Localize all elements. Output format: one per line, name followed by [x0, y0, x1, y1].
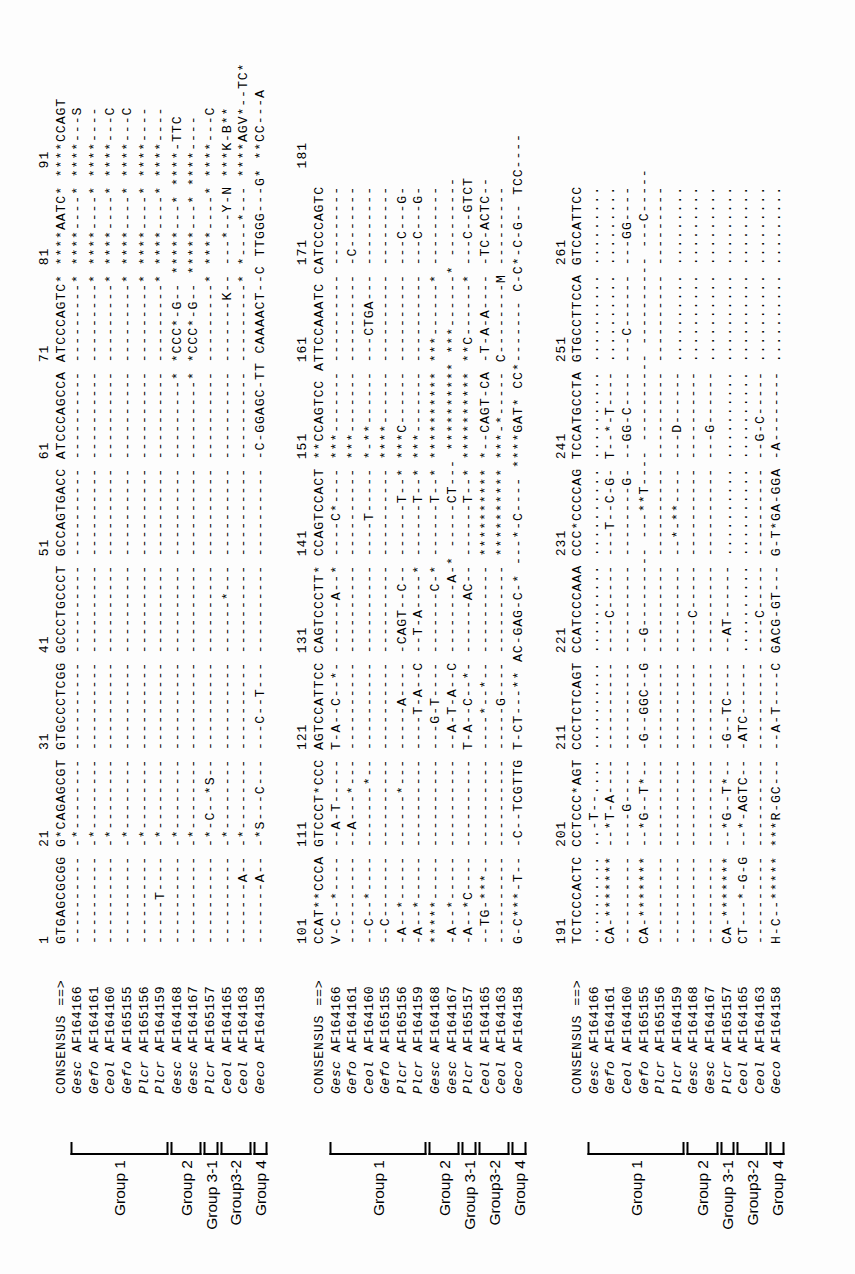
- taxon-code: Ceol: [493, 1061, 508, 1094]
- row-label: Plcr AF164159: [669, 944, 686, 1094]
- sequence-row: *****----- ---------- ---G-T---- -------…: [427, 28, 444, 944]
- alignment-block: Group 1Group 2Group 3-1Group3-2Group 4 C…: [36, 28, 268, 1244]
- sequence-row: ---------- --A---*--- ---------- -------…: [344, 28, 361, 944]
- taxon-accession: AF164159: [669, 986, 684, 1053]
- group-label: Group3-2: [744, 1155, 760, 1244]
- taxon-code: Plcr: [136, 1061, 151, 1094]
- bracket-icon: [70, 1142, 168, 1155]
- row-label: Gesc AF164166: [586, 944, 603, 1094]
- sequence-row: ---------- -*-------- ---------- -------…: [86, 28, 103, 944]
- taxon-code: Ceol: [361, 1061, 376, 1094]
- row-label: Gefo AF164161: [602, 944, 619, 1094]
- row-label: Ceol AF164163: [752, 944, 769, 1094]
- row-label: Gesc AF164167: [185, 944, 202, 1094]
- taxon-accession: AF165156: [394, 986, 409, 1053]
- taxon-accession: AF164167: [185, 986, 200, 1053]
- taxon-code: Gesc: [69, 1061, 84, 1094]
- taxon-accession: AF164161: [344, 986, 359, 1053]
- taxon-accession: AF164165: [735, 986, 750, 1053]
- taxon-accession: AF164168: [169, 986, 184, 1053]
- consensus-sequence: CCAT**CCCA GTCCCT*CCC AGTCCATTCC CAGTCCC…: [311, 28, 328, 944]
- bracket-icon: [686, 1142, 717, 1155]
- bracket-icon: [428, 1142, 459, 1155]
- taxon-accession: AF164160: [102, 986, 117, 1053]
- group-label: Group 1: [370, 1155, 386, 1244]
- taxon-accession: AF165157: [202, 986, 217, 1053]
- taxon-code: Geco: [768, 1061, 783, 1094]
- taxon-code: Gesc: [427, 1061, 442, 1094]
- sequence-column: 191 201 211 221 231 241 251 261 TCTCCCAC…: [553, 28, 785, 944]
- group-bracket-group-1: Group 1: [70, 1142, 168, 1244]
- sequence-row: ---------- -*-------- ---------- -------…: [185, 28, 202, 944]
- taxon-code: Gesc: [444, 1061, 459, 1094]
- taxon-code: Gefo: [344, 1061, 359, 1094]
- taxon-code: Ceol: [619, 1061, 634, 1094]
- consensus-sequence: GTGAGCGCGG G*CAGAGCGT GTGCCCTCGG GCCCTGC…: [53, 28, 70, 944]
- sequence-row: ---------- -*-------- ---------- ------*…: [219, 28, 236, 944]
- row-label: Plcr AF165157: [202, 944, 219, 1094]
- sequence-row: V-C--*---- --A-T----- T-A--C--*- ------A…: [328, 28, 345, 944]
- row-label: Gesc AF164168: [169, 944, 186, 1094]
- sequence-row: ---------- ---------- ---------- -------…: [669, 28, 686, 944]
- taxon-code: Plcr: [202, 1061, 217, 1094]
- group-bracket-group3-2: Group3-2: [220, 1142, 251, 1244]
- taxon-accession: AF165157: [719, 986, 734, 1053]
- group-label: Group 3-1: [719, 1155, 735, 1244]
- row-label: Gesc AF164168: [685, 944, 702, 1094]
- row-label: Gefo AF164161: [86, 944, 103, 1094]
- row-label: Geco AF164158: [768, 944, 785, 1094]
- taxon-code: Geco: [510, 1061, 525, 1094]
- group-bracket-group-4: Group 4: [511, 1142, 526, 1244]
- consensus-sequence: TCTCCCACTC CCTCCC*AGT CCCTCTCAGT CCATCCC…: [569, 28, 586, 944]
- sequence-row: CA-******* --*G--T*-- -G--TC---- --AT---…: [719, 28, 736, 944]
- row-label: Ceol AF164160: [619, 944, 636, 1094]
- taxon-accession: AF165155: [377, 986, 392, 1053]
- sequence-row: ---------- -*-C--*S-- ---------- -------…: [202, 28, 219, 944]
- sequence-row: ---------- ---------- ---------- ----C--…: [752, 28, 769, 944]
- taxon-accession: AF164166: [586, 986, 601, 1053]
- bracket-icon: [329, 1142, 427, 1155]
- taxon-accession: AF164158: [510, 986, 525, 1053]
- group-label: Group3-2: [227, 1155, 243, 1244]
- taxon-accession: AF164159: [152, 986, 167, 1053]
- taxon-accession: AF165156: [136, 986, 151, 1053]
- group-label: Group 4: [252, 1155, 268, 1244]
- row-label: Gefo AF165155: [119, 944, 136, 1094]
- group-bracket-group-3-1: Group 3-1: [720, 1142, 735, 1244]
- taxon-accession: AF165156: [652, 986, 667, 1053]
- sequence-row: CT---*-G-G --*-AGTC-- -ATC------ .......…: [735, 28, 752, 944]
- taxon-accession: AF164159: [410, 986, 425, 1053]
- bracket-icon: [769, 1142, 784, 1155]
- rotated-figure-wrapper: Group 1Group 2Group 3-1Group3-2Group 4 C…: [0, 0, 855, 1274]
- row-label: Plcr AF165156: [136, 944, 153, 1094]
- group-bracket-group-4: Group 4: [253, 1142, 268, 1244]
- sequence-row: -----T---- -*-------- ---------- -------…: [152, 28, 169, 944]
- sequence-row: ---------- ---------- ---------- -------…: [652, 28, 669, 944]
- sequence-column: 1 21 31 41 51 61 71 81 91 GTGAGCGCGG G*C…: [36, 28, 268, 944]
- taxon-accession: AF165155: [636, 986, 651, 1053]
- bracket-icon: [587, 1142, 685, 1155]
- taxon-accession: AF164161: [86, 986, 101, 1053]
- taxon-accession: AF165155: [119, 986, 134, 1053]
- taxon-accession: AF164166: [328, 986, 343, 1053]
- taxon-code: Gesc: [685, 1061, 700, 1094]
- taxon-code: Gefo: [602, 1061, 617, 1094]
- consensus-label: CONSENSUS ==>: [311, 944, 328, 1094]
- sequence-row: ---------- ----G----- ---------- -------…: [619, 28, 636, 944]
- sequence-row: --C------- ---------- ---------- -------…: [377, 28, 394, 944]
- sequence-row: -A--*----- ---------- ----T-A--C --T-A--…: [410, 28, 427, 944]
- group-label: Group 1: [111, 1155, 127, 1244]
- row-label-column: CONSENSUS ==> Gesc AF164166 Gefo AF16416…: [36, 944, 268, 1094]
- bracket-icon: [220, 1142, 251, 1155]
- taxon-code: Plcr: [460, 1061, 475, 1094]
- position-ruler: 101 111 121 131 141 151 161 171 181: [294, 28, 311, 944]
- group-bracket-group3-2: Group3-2: [736, 1142, 767, 1244]
- taxon-code: Gefo: [636, 1061, 651, 1094]
- taxon-code: Gesc: [185, 1061, 200, 1094]
- sequence-row: -------A-- -*S---C--- ---C--T--- -------…: [252, 28, 269, 944]
- taxon-code: Plcr: [719, 1061, 734, 1094]
- group-label: Group 2: [436, 1155, 452, 1244]
- taxon-code: Geco: [252, 1061, 267, 1094]
- taxon-accession: AF164165: [477, 986, 492, 1053]
- taxon-code: Ceol: [752, 1061, 767, 1094]
